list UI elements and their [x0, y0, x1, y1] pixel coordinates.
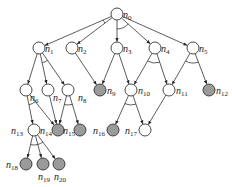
and-arc-n1	[42, 60, 47, 62]
and-arc-n0	[117, 24, 128, 29]
node-label-n14: n14	[40, 125, 53, 138]
node-label-n5: n5	[199, 43, 208, 56]
node-label-n4: n4	[161, 43, 170, 56]
node-label-n19: n19	[38, 171, 51, 184]
node-n5: n5	[187, 42, 208, 56]
open-node-circle	[187, 42, 199, 54]
edge-n10-n16	[116, 95, 129, 124]
edge-n2-n9	[75, 53, 96, 85]
node-n15: n15	[63, 124, 86, 138]
node-n18: n18	[6, 158, 32, 172]
open-node-circle	[62, 84, 74, 96]
node-label-n9: n9	[107, 85, 116, 98]
node-n10: n10	[125, 84, 151, 98]
open-node-circle	[66, 42, 78, 54]
node-n3: n3	[111, 42, 132, 56]
edge-n8-n15	[70, 96, 78, 124]
and-arc-n0	[103, 20, 105, 23]
solved-node-circle	[74, 124, 86, 136]
open-node-circle	[28, 124, 40, 136]
edge-n13-n20	[38, 135, 56, 159]
node-label-n6: n6	[30, 92, 39, 105]
node-n2: n2	[66, 42, 87, 56]
solved-node-circle	[53, 158, 65, 170]
node-label-n13: n13	[11, 125, 24, 138]
edge-n3-n10	[119, 54, 129, 84]
node-n12: n12	[203, 84, 229, 98]
node-n20: n20	[53, 158, 67, 184]
and-or-graph: n0n1n2n3n4n5n6n7n8n9n10n11n12n13n14n15n1…	[0, 0, 232, 187]
and-arc-n4	[148, 61, 160, 63]
node-n8: n8	[62, 84, 87, 105]
node-n17: n17	[125, 124, 151, 138]
open-node-circle	[125, 84, 137, 96]
node-n6: n6	[20, 84, 39, 105]
edge-n0-n4	[121, 18, 150, 44]
node-n14: n14	[40, 124, 64, 138]
and-arc-n5	[186, 61, 199, 63]
edge-n4-n11	[157, 54, 167, 84]
open-node-circle	[149, 42, 161, 54]
node-n0: n0	[111, 8, 132, 22]
node-n4: n4	[149, 42, 170, 56]
node-label-n10: n10	[138, 85, 151, 98]
node-label-n7: n7	[53, 92, 62, 105]
edge-n10-n17	[133, 96, 143, 124]
node-n16: n16	[93, 124, 119, 138]
edge-n0-n1	[45, 16, 112, 45]
edge-n0-n2	[77, 18, 112, 44]
solved-node-circle	[37, 158, 49, 170]
edge-n1-n6	[28, 54, 37, 84]
node-label-n18: n18	[6, 159, 19, 172]
node-n19: n19	[37, 158, 51, 184]
solved-node-circle	[107, 124, 119, 136]
open-node-circle	[111, 42, 123, 54]
solved-node-circle	[20, 158, 32, 170]
edge-n5-n11	[172, 53, 190, 84]
edge-n0-n5	[122, 16, 187, 45]
node-label-n20: n20	[54, 171, 67, 184]
edge-n13-n18	[27, 136, 32, 158]
open-node-circle	[111, 8, 123, 20]
open-node-circle	[139, 124, 151, 136]
node-label-n1: n1	[45, 43, 54, 56]
node-label-n12: n12	[216, 85, 229, 98]
node-label-n16: n16	[93, 125, 106, 138]
edge-n5-n12	[195, 54, 207, 84]
open-node-circle	[33, 42, 45, 54]
and-arc-n10	[125, 104, 136, 105]
node-n9: n9	[94, 84, 116, 98]
node-n13: n13	[11, 124, 40, 138]
and-arc-n13	[38, 142, 43, 144]
open-node-circle	[163, 84, 175, 96]
edge-n4-n10	[134, 53, 152, 84]
node-n7: n7	[42, 84, 62, 105]
node-label-n17: n17	[125, 125, 138, 138]
solved-node-circle	[94, 84, 106, 96]
node-label-n8: n8	[78, 92, 87, 105]
node-label-n2: n2	[78, 43, 87, 56]
node-label-n11: n11	[176, 85, 188, 98]
edge-n11-n17	[148, 95, 166, 124]
node-label-n3: n3	[123, 43, 132, 56]
node-label-n15: n15	[63, 125, 76, 138]
node-n11: n11	[163, 84, 188, 98]
edge-n3-n9	[102, 54, 114, 84]
and-arc-n8	[64, 104, 72, 105]
solved-node-circle	[203, 84, 215, 96]
